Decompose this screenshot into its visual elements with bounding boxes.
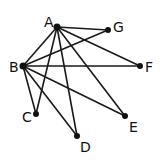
node-C bbox=[33, 111, 39, 117]
edge-B-G bbox=[23, 30, 108, 66]
node-label-G: G bbox=[113, 19, 124, 35]
node-A bbox=[54, 24, 61, 31]
node-label-C: C bbox=[22, 109, 32, 125]
edge-B-D bbox=[23, 66, 77, 136]
node-label-B: B bbox=[9, 59, 19, 75]
edges-group bbox=[23, 27, 140, 136]
labels-group: AGBFCED bbox=[9, 14, 153, 155]
graph-diagram: AGBFCED bbox=[0, 0, 162, 160]
edge-A-D bbox=[57, 27, 77, 136]
edge-A-G bbox=[57, 27, 108, 30]
node-label-D: D bbox=[80, 139, 91, 155]
node-label-E: E bbox=[129, 119, 138, 135]
node-label-A: A bbox=[44, 14, 54, 30]
edge-B-E bbox=[23, 66, 125, 116]
node-E bbox=[122, 113, 128, 119]
node-label-F: F bbox=[145, 59, 153, 75]
node-G bbox=[105, 27, 111, 33]
node-F bbox=[137, 63, 143, 69]
edge-A-E bbox=[57, 27, 125, 116]
node-B bbox=[20, 63, 27, 70]
